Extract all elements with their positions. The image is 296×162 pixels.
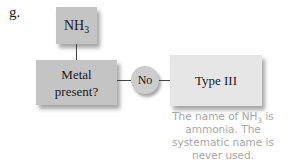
connector-line bbox=[159, 80, 170, 81]
compound-node: NH3 bbox=[56, 7, 97, 44]
compound-formula: NH3 bbox=[64, 18, 89, 34]
decision-line2: present? bbox=[55, 83, 98, 100]
note-text-1: The name of NH bbox=[172, 110, 257, 122]
formula-subscript: 3 bbox=[84, 24, 89, 35]
result-node: Type III bbox=[170, 55, 262, 106]
decision-node: Metal present? bbox=[36, 60, 117, 105]
connector-line bbox=[76, 44, 77, 60]
formula-text: NH bbox=[64, 18, 84, 33]
decision-line1: Metal bbox=[55, 66, 98, 83]
explanatory-note: The name of NH3 is ammonia. The systemat… bbox=[170, 110, 276, 162]
branch-node: No bbox=[131, 66, 159, 94]
figure-label: g. bbox=[9, 4, 20, 21]
connector-line bbox=[117, 80, 131, 81]
